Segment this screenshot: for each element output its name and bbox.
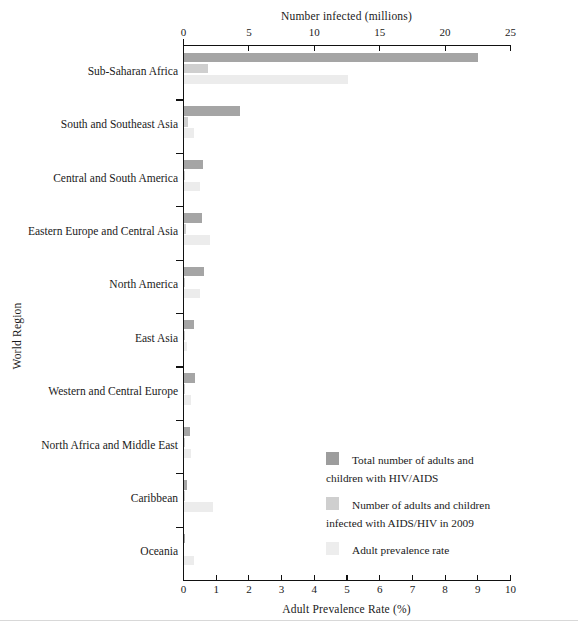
bar bbox=[184, 64, 208, 74]
top-axis-tick bbox=[314, 45, 315, 51]
bottom-axis-tick bbox=[248, 575, 249, 581]
bottom-axis-tick bbox=[346, 575, 347, 581]
bar bbox=[184, 289, 200, 299]
top-axis-tick-label: 15 bbox=[360, 26, 400, 38]
top-axis-tick-label: 25 bbox=[491, 26, 531, 38]
bottom-axis-tick bbox=[183, 575, 184, 581]
legend-swatch-icon bbox=[326, 452, 339, 465]
top-axis-tick bbox=[379, 45, 380, 51]
y-axis-tick bbox=[176, 99, 183, 100]
top-axis-cap bbox=[510, 45, 511, 51]
chart-legend: Total number of adults and children with… bbox=[326, 450, 541, 575]
top-axis-tick bbox=[445, 45, 446, 51]
bottom-axis-tick bbox=[445, 575, 446, 581]
bottom-axis-tick-label: 10 bbox=[491, 583, 531, 595]
y-axis-tick bbox=[176, 420, 183, 421]
y-axis-tick bbox=[176, 260, 183, 261]
bottom-axis-tick bbox=[314, 575, 315, 581]
top-axis-cap bbox=[183, 39, 184, 51]
category-label: North America bbox=[0, 278, 178, 290]
legend-swatch-icon bbox=[326, 542, 339, 555]
bar bbox=[184, 534, 185, 544]
category-label: Caribbean bbox=[0, 492, 178, 504]
bar bbox=[184, 182, 200, 192]
category-label: South and Southeast Asia bbox=[0, 118, 178, 130]
legend-swatch-icon bbox=[326, 497, 339, 510]
category-label: Eastern Europe and Central Asia bbox=[0, 225, 178, 237]
top-axis-tick-label: 0 bbox=[164, 26, 204, 38]
chart-container: Number infected (millions) Adult Prevale… bbox=[0, 0, 578, 625]
bottom-axis-tick bbox=[216, 575, 217, 581]
bottom-axis-tick bbox=[281, 575, 282, 581]
bar bbox=[184, 106, 240, 116]
top-axis-tick-label: 5 bbox=[229, 26, 269, 38]
bar bbox=[184, 449, 191, 459]
bottom-axis-title: Adult Prevalence Rate (%) bbox=[183, 603, 510, 615]
y-axis-tick bbox=[176, 366, 183, 367]
y-axis-tick bbox=[176, 206, 183, 207]
category-label: North Africa and Middle East bbox=[0, 439, 178, 451]
bottom-axis-tick bbox=[412, 575, 413, 581]
y-axis-tick bbox=[176, 473, 183, 474]
legend-item: Total number of adults and children with… bbox=[326, 450, 541, 486]
bar bbox=[184, 342, 187, 352]
legend-label: Total number of adults and children with… bbox=[326, 454, 474, 484]
bottom-axis-cap bbox=[510, 575, 511, 581]
top-axis-tick-label: 20 bbox=[425, 26, 465, 38]
y-axis-tick bbox=[176, 313, 183, 314]
bar bbox=[184, 235, 210, 245]
bar bbox=[184, 438, 185, 448]
bar bbox=[184, 320, 194, 330]
legend-item: Number of adults and children infected w… bbox=[326, 495, 541, 531]
bar bbox=[184, 171, 185, 181]
y-axis-tick bbox=[176, 527, 183, 528]
top-axis-tick bbox=[248, 45, 249, 51]
bar bbox=[184, 160, 203, 170]
bottom-axis-tick bbox=[477, 575, 478, 581]
legend-label: Adult prevalence rate bbox=[352, 544, 449, 556]
bar bbox=[184, 480, 187, 490]
bar bbox=[184, 331, 185, 341]
legend-label: Number of adults and children infected w… bbox=[326, 499, 490, 529]
bottom-axis-tick bbox=[379, 575, 380, 581]
bar bbox=[184, 278, 185, 288]
bar bbox=[184, 117, 188, 127]
top-axis-title: Number infected (millions) bbox=[183, 10, 510, 22]
category-label: Western and Central Europe bbox=[0, 385, 178, 397]
category-label: Oceania bbox=[0, 545, 178, 557]
bar bbox=[184, 427, 190, 437]
category-label: East Asia bbox=[0, 332, 178, 344]
bar bbox=[184, 502, 213, 512]
category-label: Central and South America bbox=[0, 172, 178, 184]
legend-item: Adult prevalence rate bbox=[326, 540, 541, 566]
bar bbox=[184, 373, 195, 383]
bar bbox=[184, 395, 191, 405]
bar bbox=[184, 213, 202, 223]
y-axis-tick bbox=[176, 153, 183, 154]
bar bbox=[184, 267, 204, 277]
page-bottom-rule bbox=[0, 620, 578, 621]
top-axis-line bbox=[183, 45, 511, 46]
top-axis-tick-label: 10 bbox=[294, 26, 334, 38]
bar bbox=[184, 224, 186, 234]
bar bbox=[184, 556, 194, 566]
bar bbox=[184, 128, 194, 138]
category-label: Sub-Saharan Africa bbox=[0, 65, 178, 77]
bar bbox=[184, 75, 348, 85]
bar bbox=[184, 53, 478, 63]
